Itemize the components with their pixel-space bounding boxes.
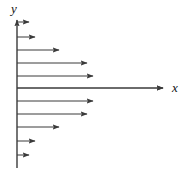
x-axis-label: x bbox=[171, 80, 178, 95]
vector-field-figure: yx bbox=[0, 0, 184, 181]
y-axis-label: y bbox=[9, 1, 17, 16]
vectors-group bbox=[17, 22, 163, 155]
axes-group bbox=[17, 20, 163, 168]
axis-labels-group: yx bbox=[9, 1, 178, 95]
vector-field-canvas: yx bbox=[0, 0, 184, 181]
